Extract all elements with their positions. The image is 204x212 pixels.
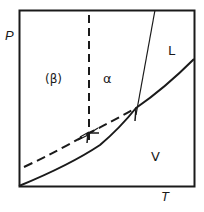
- y-axis-label: P: [5, 29, 14, 42]
- triple-point-tick: [135, 108, 136, 121]
- triple-point-tick: [87, 133, 88, 143]
- region-label-vapor: V: [151, 150, 160, 163]
- phase-diagram: [0, 0, 204, 212]
- melting-line: [136, 10, 155, 115]
- arrow-icon: [90, 128, 99, 133]
- plot-frame: [20, 11, 195, 187]
- region-label-beta: (β): [45, 73, 62, 85]
- x-axis-label: T: [161, 190, 169, 203]
- region-label-alpha: α: [103, 72, 112, 85]
- region-label-liquid: L: [168, 44, 175, 57]
